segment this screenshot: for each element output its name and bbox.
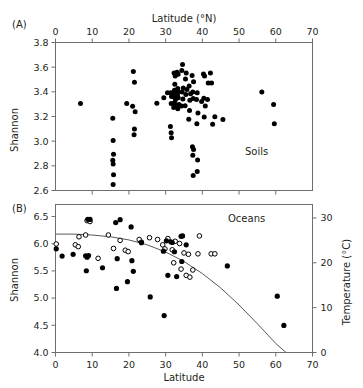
data-point xyxy=(125,279,130,284)
x-tick-label: 70 xyxy=(306,359,318,370)
x-tick-label: 50 xyxy=(233,26,245,37)
panel-a-y-axis-title: Shannon xyxy=(9,108,20,152)
data-point xyxy=(176,95,181,100)
data-point xyxy=(210,122,215,127)
data-point xyxy=(203,104,208,109)
data-point-open xyxy=(83,233,88,238)
data-point-open xyxy=(155,237,160,242)
data-point xyxy=(191,147,196,152)
y2-tick-label: 20 xyxy=(321,257,333,268)
data-point xyxy=(111,182,116,187)
data-point xyxy=(202,115,207,120)
data-point-open xyxy=(171,261,176,266)
data-point xyxy=(154,101,159,106)
data-point xyxy=(118,217,123,222)
data-point xyxy=(161,95,166,100)
data-point xyxy=(195,157,200,162)
data-point xyxy=(113,220,118,225)
data-point xyxy=(129,258,134,263)
data-point-open xyxy=(111,246,116,251)
data-point xyxy=(271,102,276,107)
data-point xyxy=(111,161,116,166)
data-point xyxy=(220,117,225,122)
data-point xyxy=(60,253,65,258)
data-point-open xyxy=(96,256,101,261)
y-tick-label: 3.8 xyxy=(33,37,48,48)
data-point xyxy=(209,80,214,85)
data-point-open xyxy=(77,234,82,239)
panel-b-y2-ticks: 0102030 xyxy=(313,212,333,358)
y2-tick-label: 30 xyxy=(321,212,333,223)
x-tick-label: 30 xyxy=(160,359,172,370)
y-tick-label: 3.0 xyxy=(33,136,48,147)
data-point xyxy=(139,240,144,245)
data-point xyxy=(183,92,188,97)
data-point xyxy=(114,286,119,291)
data-point xyxy=(225,263,230,268)
panel-a-y-ticks: 2.62.83.03.23.43.63.8 xyxy=(33,37,55,196)
data-point-open xyxy=(197,234,202,239)
data-point xyxy=(131,69,136,74)
x-tick-label: 70 xyxy=(306,26,318,37)
data-point xyxy=(179,68,184,73)
x-tick-label: 50 xyxy=(233,359,245,370)
data-point xyxy=(183,103,188,108)
panel-b-shannon-points xyxy=(54,217,287,328)
data-point-open xyxy=(213,252,218,257)
data-point xyxy=(176,72,181,77)
panel-b-label: (B) xyxy=(12,203,27,214)
y-tick-label: 6.5 xyxy=(33,211,48,222)
data-point xyxy=(172,249,177,254)
data-point xyxy=(183,76,188,81)
panel-a-x-ticks-bottom xyxy=(92,191,276,195)
data-point xyxy=(100,265,105,270)
x-tick-label: 60 xyxy=(270,26,282,37)
data-point xyxy=(180,62,185,67)
data-point xyxy=(165,273,170,278)
data-point xyxy=(190,90,195,95)
data-point xyxy=(184,71,189,76)
data-point-open xyxy=(191,268,196,273)
y-tick-label: 6.0 xyxy=(33,238,48,249)
data-point xyxy=(202,74,207,79)
panel-a-data-points xyxy=(78,62,277,187)
data-point-open xyxy=(188,275,193,280)
data-point xyxy=(191,173,196,178)
y-tick-label: 5.0 xyxy=(33,292,48,303)
x-tick-label: 40 xyxy=(196,26,208,37)
data-point-open xyxy=(118,238,123,243)
panel-a: (A) Latitude (°N) Shannon Soils 01020304… xyxy=(9,13,319,196)
data-point xyxy=(212,114,217,119)
data-point xyxy=(259,90,264,95)
data-point xyxy=(275,294,280,299)
data-point xyxy=(187,108,192,113)
data-point-open xyxy=(126,249,131,254)
data-point xyxy=(54,246,59,251)
data-point xyxy=(132,80,137,85)
data-point xyxy=(179,259,184,264)
data-point xyxy=(110,116,115,121)
data-point xyxy=(180,96,185,101)
data-point-open xyxy=(179,267,184,272)
data-point xyxy=(195,169,200,174)
panel-b-annotation-oceans: Oceans xyxy=(228,213,265,224)
panel-b-x-ticks: 010203040506070 xyxy=(52,353,318,370)
panel-a-x-axis-title: Latitude (°N) xyxy=(152,13,217,24)
y-tick-label: 4.0 xyxy=(33,347,48,358)
data-point xyxy=(132,127,137,132)
data-point xyxy=(174,274,179,279)
scatter-figure: (A) Latitude (°N) Shannon Soils 01020304… xyxy=(0,0,363,388)
data-point xyxy=(162,313,167,318)
data-point xyxy=(78,101,83,106)
data-point xyxy=(132,132,137,137)
data-point xyxy=(180,233,185,238)
data-point xyxy=(130,104,135,109)
data-point xyxy=(115,256,120,261)
x-tick-label: 0 xyxy=(52,26,58,37)
data-point xyxy=(84,268,89,273)
data-point xyxy=(161,249,166,254)
panel-b-y-axis-title: Shannon xyxy=(9,258,20,302)
data-point xyxy=(168,124,173,129)
data-point xyxy=(191,79,196,84)
panel-a-annotation-soils: Soils xyxy=(245,146,268,157)
